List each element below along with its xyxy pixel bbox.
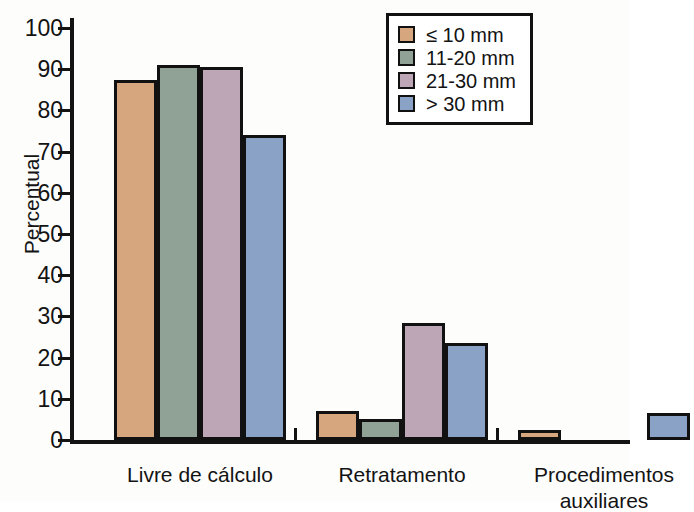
y-tick-label: 10 [37,387,63,410]
legend-label: 11-20 mm [426,48,515,68]
category-label: Procedimentos auxiliares [494,462,694,512]
y-tick-label: 30 [37,305,63,328]
bar [243,135,286,440]
legend-swatch [398,26,415,43]
y-tick-label: 50 [37,223,63,246]
y-tick-label: 100 [25,17,63,40]
bar [647,413,690,440]
bar [316,411,359,440]
legend-swatch [398,49,415,66]
legend-item: ≤ 10 mm [398,23,516,46]
bar [200,67,243,440]
legend-label: 21-30 mm [426,71,516,91]
legend-item: > 30 mm [398,92,516,115]
category-label: Retratamento [292,462,512,488]
bar [402,323,445,440]
legend-rows: ≤ 10 mm11-20 mm21-30 mm> 30 mm [398,23,516,115]
y-axis-line [70,18,74,444]
plot-area: 0102030405060708090100 Livre de cálculoR… [70,10,630,450]
legend: ≤ 10 mm11-20 mm21-30 mm> 30 mm [386,13,533,125]
x-tick-mark [496,428,499,442]
legend-label: > 30 mm [426,94,504,114]
legend-label: ≤ 10 mm [426,25,504,45]
category-label: Livre de cálculo [90,462,310,488]
y-tick-label: 40 [37,264,63,287]
legend-swatch [398,95,415,112]
bar [157,65,200,440]
y-tick-label: 70 [37,140,63,163]
x-axis-line [70,440,630,444]
y-tick-label: 0 [50,429,63,452]
bar [114,80,157,441]
bar [445,343,488,440]
legend-swatch [398,72,415,89]
y-tick-label: 20 [37,346,63,369]
legend-item: 21-30 mm [398,69,516,92]
x-tick-mark [294,428,297,442]
bar [518,430,561,440]
y-tick-label: 60 [37,181,63,204]
legend-item: 11-20 mm [398,46,516,69]
y-tick-label: 90 [37,58,63,81]
y-tick-label: 80 [37,99,63,122]
bar [359,419,402,440]
